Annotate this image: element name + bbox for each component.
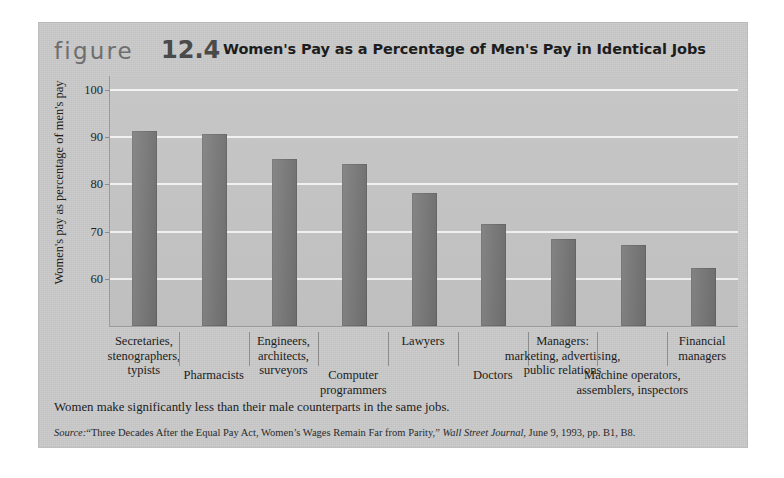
x-axis-separator	[249, 332, 250, 366]
y-axis-tick-60: 60	[91, 271, 104, 286]
figure-card: figure 12.4 Women's Pay as a Percentage …	[38, 22, 748, 448]
y-axis-tickmark-100	[105, 90, 110, 91]
x-axis-separator	[388, 332, 389, 366]
x-axis-label-line: Financial	[678, 334, 726, 349]
y-axis-title: Women's pay as percentage of men's pay	[50, 70, 68, 295]
x-axis-category-labels: Secretaries,stenographers,typistsPharmac…	[109, 334, 777, 396]
x-axis-label-line: stenographers,	[108, 349, 181, 364]
figure-source: Source:“Three Decades After the Equal Pa…	[54, 426, 714, 440]
x-axis-label-4: Lawyers	[401, 334, 444, 349]
y-axis-tickmark-80	[105, 184, 110, 185]
y-axis-tick-90: 90	[91, 130, 104, 145]
y-axis-title-text: Women's pay as percentage of men's pay	[52, 80, 67, 284]
source-text-1: “Three Decades After the Equal Pay Act, …	[86, 427, 440, 438]
x-axis-label-8: Financialmanagers	[678, 334, 726, 363]
x-axis-separator	[318, 332, 319, 366]
x-axis-label-3: Computerprogrammers	[320, 368, 387, 397]
x-axis-separator	[179, 332, 180, 366]
bar-2	[272, 159, 297, 326]
x-axis-label-line: Machine operators,	[576, 368, 688, 383]
x-axis-label-line: assemblers, inspectors	[576, 383, 688, 398]
x-axis-label-line: programmers	[320, 383, 387, 398]
x-axis-label-line: Computer	[320, 368, 387, 383]
bar-1	[202, 134, 227, 326]
x-axis-label-line: Secretaries,	[108, 334, 181, 349]
y-axis-tickmark-70	[105, 232, 110, 233]
y-axis-tick-70: 70	[91, 224, 104, 239]
x-axis-label-line: Engineers,	[257, 334, 310, 349]
bar-7	[621, 245, 646, 326]
y-axis-tickmark-90	[105, 137, 110, 138]
bar-5	[481, 224, 506, 326]
figure-number: 12.4	[161, 36, 220, 64]
figure-title: Women's Pay as a Percentage of Men's Pay…	[223, 41, 706, 57]
y-axis-tick-80: 80	[91, 177, 104, 192]
source-label: Source:	[54, 427, 86, 438]
x-axis-label-line: Pharmacists	[183, 368, 243, 383]
x-axis-label-line: architects,	[257, 349, 310, 364]
bar-6	[551, 239, 576, 326]
source-text-2: , June 9, 1993, pp. B1, B8.	[523, 427, 635, 438]
x-axis-label-line: marketing, advertising,	[505, 349, 621, 364]
bar-3	[342, 164, 367, 326]
x-axis-label-line: managers	[678, 349, 726, 364]
plot-area: 60708090100	[109, 76, 738, 327]
x-axis-label-1: Pharmacists	[183, 368, 243, 383]
bar-chart: Women's pay as percentage of men's pay 6…	[54, 70, 732, 332]
bar-0	[132, 131, 157, 326]
x-axis-label-line: typists	[108, 363, 181, 378]
y-axis-tickmark-60	[105, 279, 110, 280]
y-axis-tick-100: 100	[84, 83, 103, 98]
gridline-100	[110, 89, 738, 91]
x-axis-label-line: surveyors	[257, 363, 310, 378]
x-axis-separator	[458, 332, 459, 366]
x-axis-label-line: Managers:	[505, 334, 621, 349]
figure-word-label: figure	[54, 38, 134, 64]
x-axis-label-0: Secretaries,stenographers,typists	[108, 334, 181, 378]
figure-caption: Women make significantly less than their…	[54, 400, 450, 415]
x-axis-label-7: Machine operators,assemblers, inspectors	[576, 368, 688, 397]
x-axis-label-line: Lawyers	[401, 334, 444, 349]
source-publication: Wall Street Journal	[442, 427, 523, 438]
figure-header: figure 12.4 Women's Pay as a Percentage …	[54, 36, 738, 66]
x-axis-separator	[667, 332, 668, 366]
bar-8	[691, 268, 716, 326]
x-axis-label-2: Engineers,architects,surveyors	[257, 334, 310, 378]
bar-4	[412, 193, 437, 326]
x-axis-separator	[597, 332, 598, 366]
